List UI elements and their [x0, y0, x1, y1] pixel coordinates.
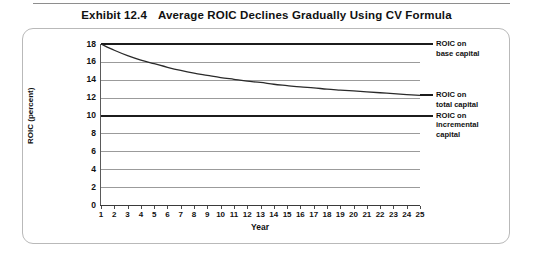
annotation-leader-line [420, 94, 433, 96]
series-line-roic-on-total-capital [101, 44, 420, 95]
series-annotation-label: ROIC on incremental capital [436, 111, 479, 140]
series-annotation-label: ROIC on total capital [436, 90, 478, 109]
annotation-leader-line [420, 43, 433, 45]
roic-line-chart: ROIC (percent) 024681012141618 123456789… [0, 0, 533, 262]
series-annotation-label: ROIC on base capital [436, 39, 479, 58]
annotation-leader-line [420, 115, 433, 117]
